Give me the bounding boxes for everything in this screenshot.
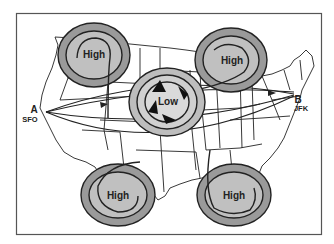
- system-label: High: [223, 190, 245, 201]
- system-label: Low: [158, 96, 178, 107]
- weather-diagram: High High Low High High A SFO B: [0, 0, 334, 244]
- point-a-letter: A: [30, 104, 37, 115]
- point-a-code: SFO: [22, 115, 38, 124]
- system-label: High: [221, 55, 243, 66]
- point-b-code: JFK: [294, 104, 309, 113]
- system-label: High: [107, 190, 129, 201]
- low-pressure-system: Low: [129, 68, 205, 136]
- system-label: High: [83, 49, 105, 60]
